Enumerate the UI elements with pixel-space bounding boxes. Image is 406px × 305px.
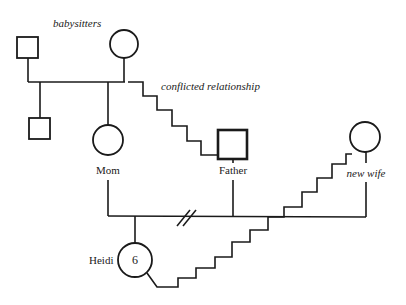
heidi-label: Heidi bbox=[89, 254, 113, 266]
mom-label: Mom bbox=[96, 164, 120, 176]
father-square[interactable] bbox=[218, 130, 247, 159]
conflicted-relationship-label: conflicted relationship bbox=[161, 80, 260, 92]
babysitters-son-square[interactable] bbox=[29, 118, 50, 139]
father-label: Father bbox=[219, 164, 247, 176]
conflict-line-babysitter-father bbox=[128, 82, 218, 155]
conflict-line-heidi-new-wife bbox=[147, 154, 352, 287]
mom-circle[interactable] bbox=[93, 125, 123, 155]
divorce-slash-1 bbox=[177, 210, 190, 226]
genogram-canvas: babysitters conflicted relationship Mom … bbox=[0, 0, 406, 305]
marriage-line bbox=[108, 216, 366, 217]
babysitter-female-circle[interactable] bbox=[110, 30, 138, 58]
babysitter-male-square[interactable] bbox=[17, 37, 38, 58]
heidi-age: 6 bbox=[132, 253, 138, 267]
divorce-slash-2 bbox=[183, 210, 196, 226]
new-wife-circle[interactable] bbox=[350, 122, 380, 152]
babysitters-label: babysitters bbox=[53, 17, 101, 29]
new-wife-label: new wife bbox=[347, 167, 386, 179]
